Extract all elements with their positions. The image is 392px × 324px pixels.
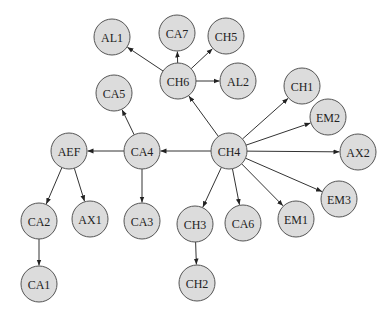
node-ch4: CH4 [211, 133, 247, 169]
node-ca6: CA6 [225, 205, 261, 241]
node-label: AL2 [227, 75, 249, 89]
node-label: CA6 [232, 217, 255, 231]
tree-diagram: CH4CH6AL1CA7CH5AL2CH1EM2AX2EM3EM1CA6CH3C… [0, 0, 392, 324]
node-ax2: AX2 [340, 134, 376, 170]
node-label: AX1 [78, 213, 101, 227]
edge-ch4-to-ch6 [189, 96, 219, 136]
node-ca1: CA1 [21, 266, 57, 302]
node-label: CH3 [184, 218, 207, 232]
edge-ca4-to-ca5 [122, 110, 134, 135]
node-label: EM3 [327, 193, 351, 207]
node-al1: AL1 [94, 19, 130, 55]
node-label: CH6 [167, 75, 190, 89]
node-label: CH2 [186, 277, 209, 291]
edge-aef-to-ax1 [74, 168, 84, 201]
edge-ch4-to-ca6 [232, 169, 239, 205]
edge-ch4-to-em2 [246, 123, 310, 145]
node-ch5: CH5 [208, 18, 244, 54]
node-label: CA3 [131, 215, 154, 229]
node-label: CA4 [131, 145, 154, 159]
node-ax1: AX1 [72, 201, 108, 237]
node-ca3: CA3 [124, 203, 160, 239]
node-label: CA7 [166, 27, 189, 41]
node-em2: EM2 [310, 99, 346, 135]
node-em3: EM3 [321, 181, 357, 217]
node-ca2: CA2 [21, 203, 57, 239]
node-ch2: CH2 [179, 265, 215, 301]
node-aef: AEF [51, 133, 87, 169]
edge-ch4-to-em3 [245, 158, 322, 191]
node-label: AEF [58, 145, 81, 159]
edge-ch6-to-ch5 [191, 49, 212, 69]
node-ca4: CA4 [124, 133, 160, 169]
node-al2: AL2 [220, 63, 256, 99]
node-label: AX2 [346, 146, 369, 160]
node-label: CH4 [218, 145, 241, 159]
edge-ch6-to-al1 [127, 47, 163, 71]
node-ch6: CH6 [160, 63, 196, 99]
node-label: CH1 [291, 80, 314, 94]
node-label: EM2 [316, 111, 340, 125]
node-ca7: CA7 [159, 15, 195, 51]
node-label: CA2 [28, 215, 51, 229]
node-label: EM1 [284, 213, 308, 227]
edge-aef-to-ca2 [46, 168, 62, 204]
node-label: AL1 [101, 31, 123, 45]
node-label: CA1 [28, 278, 51, 292]
edge-ch4-to-em1 [242, 164, 283, 206]
edge-ch4-to-ax2 [247, 151, 340, 152]
node-ch3: CH3 [177, 206, 213, 242]
nodes-layer: CH4CH6AL1CA7CH5AL2CH1EM2AX2EM3EM1CA6CH3C… [21, 15, 376, 302]
node-label: CA5 [103, 87, 126, 101]
node-ch1: CH1 [284, 68, 320, 104]
node-label: CH5 [215, 30, 238, 44]
edge-ch4-to-ch3 [203, 167, 222, 207]
node-em1: EM1 [278, 201, 314, 237]
node-ca5: CA5 [96, 75, 132, 111]
edge-ch3-to-ch2 [196, 242, 197, 265]
